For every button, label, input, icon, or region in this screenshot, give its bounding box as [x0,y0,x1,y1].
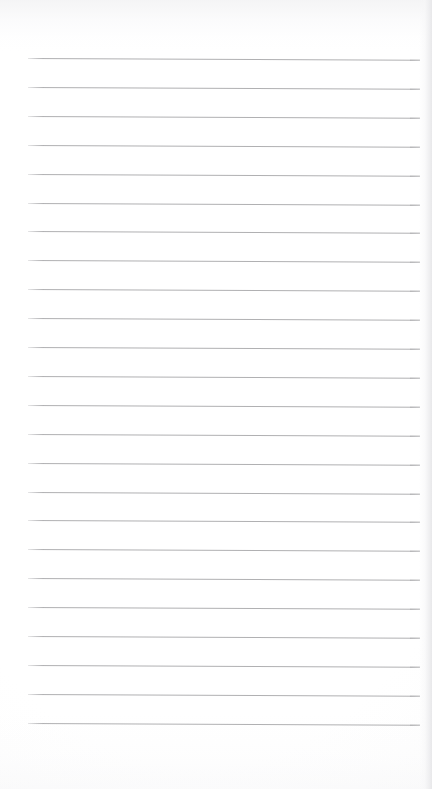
ruled-line [28,347,420,350]
ruled-line [28,607,420,610]
ruled-line [28,318,420,321]
ruled-line [28,174,420,177]
ruled-line [28,145,420,148]
ruled-line [28,636,420,639]
ruled-line [28,376,420,379]
ruled-line [28,723,420,726]
ruled-line-layer [0,0,432,789]
ruled-line [28,405,420,408]
ruled-line [28,203,420,206]
ruled-line [28,231,420,234]
ruled-line [28,694,420,697]
ruled-line [28,578,420,581]
lined-paper-page [0,0,432,789]
ruled-line [28,289,420,292]
ruled-line [28,549,420,552]
ruled-line [28,87,420,90]
ruled-line [28,463,420,466]
ruled-line [28,520,420,523]
ruled-line [28,116,420,119]
ruled-line [28,434,420,437]
ruled-line [28,260,420,263]
ruled-line [28,58,420,61]
ruled-line [28,492,420,495]
ruled-line [28,665,420,668]
